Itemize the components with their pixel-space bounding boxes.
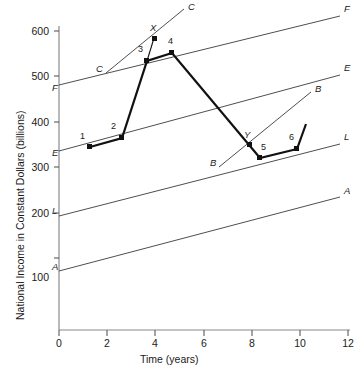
y-tick-600: 600 (19, 26, 49, 37)
point-label-y: Y (244, 130, 250, 140)
point-label-1: 1 (80, 132, 85, 141)
connector-x-to-3 (147, 38, 154, 61)
y-tick-500: 500 (19, 71, 49, 82)
marker-point-6 (294, 146, 299, 151)
chart-plot-area (0, 0, 361, 369)
series-label-f-left: F (52, 83, 58, 93)
x-tick-8: 8 (242, 338, 262, 349)
point-label-4: 4 (168, 37, 173, 46)
x-tick-6: 6 (194, 338, 214, 349)
series-label-c-start: C (96, 64, 103, 74)
marker-point-y (247, 142, 252, 147)
x-tick-10: 10 (290, 338, 310, 349)
x-tick-2: 2 (97, 338, 117, 349)
x-axis-title: Time (years) (140, 354, 199, 365)
point-label-5: 5 (261, 143, 266, 152)
y-axis-title: National Income in Constant Dollars (bil… (14, 110, 26, 320)
x-tick-12: 12 (338, 338, 358, 349)
marker-point-2 (119, 135, 124, 140)
trend-line-f (59, 16, 340, 85)
point-label-2: 2 (111, 122, 116, 131)
post-six-segment (297, 124, 306, 149)
series-label-a-right: A (344, 186, 350, 196)
series-label-b-start: B (210, 158, 216, 168)
series-label-l-right: L (344, 132, 349, 142)
marker-point-3 (144, 58, 149, 63)
marker-point-5 (257, 155, 262, 160)
cycle-point-markers (87, 36, 299, 160)
marker-point-x (152, 36, 157, 41)
series-label-e-left: E (52, 148, 58, 158)
series-label-b-end: B (315, 84, 321, 94)
point-label-x: X (150, 23, 156, 33)
x-tick-0: 0 (49, 338, 69, 349)
trend-line-l (59, 144, 340, 216)
series-label-c-end: C (188, 2, 195, 12)
series-label-f-right: F (344, 4, 350, 14)
point-label-3: 3 (138, 45, 143, 54)
marker-point-4 (169, 50, 174, 55)
chart-figure: 600 500 400 300 200 100 0 2 4 6 8 10 12 … (0, 0, 361, 369)
trend-line-a (59, 197, 340, 271)
y-tick-marks (54, 31, 59, 258)
marker-point-1 (87, 144, 92, 149)
series-label-l-left: L (52, 206, 57, 216)
point-label-6: 6 (289, 133, 294, 142)
x-tick-marks (59, 330, 348, 336)
series-label-a-left: A (52, 262, 58, 272)
x-tick-4: 4 (145, 338, 165, 349)
series-label-e-right: E (344, 63, 350, 73)
